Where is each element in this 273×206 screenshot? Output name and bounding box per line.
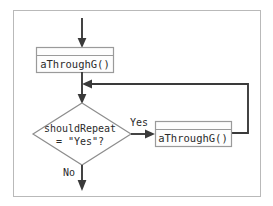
edge-label-yes: Yes	[130, 117, 148, 128]
decision-label-line-1: shouldRepeat	[44, 123, 116, 134]
decision-label-line-2: = "Yes"?	[56, 136, 104, 147]
node-process-1[interactable]: aThroughG()	[37, 48, 114, 73]
diagram-border	[14, 11, 261, 197]
process-2-label: aThroughG()	[158, 132, 228, 144]
process-1-label: aThroughG()	[40, 58, 110, 70]
flowchart-svg: aThroughG() shouldRepeat = "Yes"? Yes	[0, 0, 273, 206]
node-process-2[interactable]: aThroughG()	[156, 122, 232, 147]
flowchart-canvas: aThroughG() shouldRepeat = "Yes"? Yes	[0, 0, 273, 206]
edge-label-no: No	[63, 167, 75, 178]
